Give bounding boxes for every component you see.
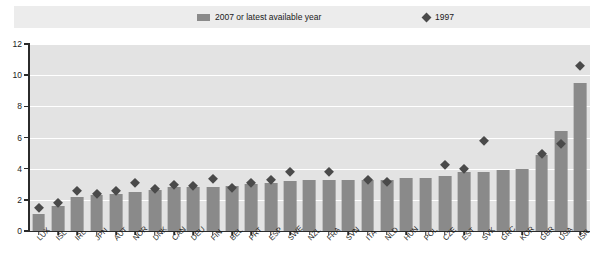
y-axis-tick-label: 6 [0,133,22,143]
diamond-marker[interactable] [208,173,217,182]
bar-column[interactable] [435,44,454,231]
bar[interactable] [516,169,529,231]
bar-column[interactable] [164,44,183,231]
bar-column[interactable] [551,44,570,231]
bar-column[interactable] [300,44,319,231]
bar[interactable] [264,183,277,231]
bar-column[interactable] [29,44,48,231]
diamond-marker[interactable] [34,203,43,212]
diamond-marker[interactable] [131,178,140,187]
bar-column[interactable] [184,44,203,231]
bar[interactable] [206,187,219,231]
bar[interactable] [245,184,258,231]
bar-column[interactable] [145,44,164,231]
bar[interactable] [574,83,587,231]
bar-column[interactable] [455,44,474,231]
bar-column[interactable] [106,44,125,231]
legend-item-bars: 2007 or latest available year [197,6,321,28]
legend-item-diamond: 1997 [423,6,454,28]
y-axis-tick-label: 0 [0,226,22,236]
diamond-marker[interactable] [286,167,295,176]
bar[interactable] [303,180,316,231]
bar-column[interactable] [280,44,299,231]
bar-column[interactable] [339,44,358,231]
diamond-marker[interactable] [440,159,449,168]
bar[interactable] [226,186,239,231]
bar-column[interactable] [358,44,377,231]
chart-legend: 2007 or latest available year 1997 [14,6,590,28]
bar[interactable] [187,187,200,231]
bar-column[interactable] [571,44,590,231]
bar[interactable] [535,155,548,231]
bar-column[interactable] [397,44,416,231]
y-axis-tick-label: 8 [0,101,22,111]
bar[interactable] [497,170,510,231]
bar-column[interactable] [474,44,493,231]
y-axis-tick-label: 2 [0,195,22,205]
bar[interactable] [458,172,471,231]
bar[interactable] [477,172,490,231]
bar[interactable] [110,194,123,231]
bar-column[interactable] [126,44,145,231]
bar[interactable] [71,197,84,231]
chart-root: 2007 or latest available year 1997 02468… [0,0,604,260]
y-axis-tick-label: 12 [0,39,22,49]
bar-column[interactable] [532,44,551,231]
diamond-marker[interactable] [324,167,333,176]
bar[interactable] [284,181,297,231]
bar-column[interactable] [87,44,106,231]
bar[interactable] [168,187,181,231]
bar-column[interactable] [242,44,261,231]
bar-column[interactable] [416,44,435,231]
data-series-container [29,44,590,231]
bar-column[interactable] [203,44,222,231]
diamond-marker[interactable] [576,61,585,70]
x-axis-labels: LUXISLIRLJPNAUTNORDNKCANDEUFINBELPRTESPS… [29,234,590,260]
bar-column[interactable] [68,44,87,231]
bar-swatch-icon [197,14,210,21]
bar[interactable] [400,178,413,231]
legend-label-diamond: 1997 [435,12,454,22]
bar[interactable] [90,195,103,231]
y-axis-tick-label: 10 [0,70,22,80]
bar-column[interactable] [377,44,396,231]
bar-column[interactable] [493,44,512,231]
bar[interactable] [52,206,65,231]
diamond-swatch-icon [422,12,432,22]
bar-column[interactable] [513,44,532,231]
bar[interactable] [380,180,393,231]
y-axis-labels: 024681012 [0,0,22,260]
bar-column[interactable] [261,44,280,231]
diamond-marker[interactable] [479,136,488,145]
legend-label-bars: 2007 or latest available year [215,12,321,22]
y-axis-tick-label: 4 [0,164,22,174]
bar[interactable] [322,180,335,231]
bar[interactable] [419,178,432,231]
bar[interactable] [342,180,355,231]
bar-column[interactable] [222,44,241,231]
bar[interactable] [129,192,142,231]
bar-column[interactable] [48,44,67,231]
bar-column[interactable] [319,44,338,231]
bar[interactable] [361,180,374,231]
bar[interactable] [148,190,161,231]
bar[interactable] [439,176,452,231]
diamond-marker[interactable] [73,186,82,195]
